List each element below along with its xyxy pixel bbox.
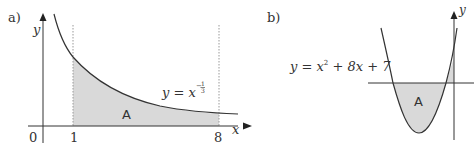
equation-b-part1: y = x	[289, 59, 325, 74]
x-axis-label-a: x	[232, 122, 240, 137]
y-axis-b-arrow-icon	[451, 11, 458, 19]
panel-b-label: b)	[267, 10, 280, 25]
origin-label: 0	[29, 130, 37, 145]
y-axis-arrow-icon	[40, 13, 47, 21]
region-label-b: A	[414, 94, 423, 109]
equation-b: y = x2 + 8x + 7	[289, 59, 391, 74]
equation-a-den: 3	[201, 87, 205, 94]
y-axis-label-a: y	[32, 22, 41, 37]
x-tick-1: 1	[70, 130, 78, 145]
equation-b-part2: + 8x + 7	[328, 59, 391, 74]
x-axis-arrow-icon	[243, 123, 252, 130]
equation-a-base: y = x	[161, 85, 197, 100]
panel-a-label: a)	[8, 10, 21, 25]
panel-b: b) y A y = x2 + 8x + 7	[267, 3, 474, 140]
region-label-a: A	[122, 107, 131, 122]
equation-a: y = x − 1 3	[161, 80, 205, 100]
x-tick-8: 8	[214, 130, 222, 145]
y-axis-label-b: y	[458, 3, 466, 17]
panel-a: a) y x 0 1 8 A y = x − 1 3	[8, 10, 240, 145]
figure-canvas: a) y x 0 1 8 A y = x − 1 3 b) y A	[0, 0, 474, 153]
equation-a-num: 1	[201, 80, 205, 87]
shaded-area-a	[73, 57, 219, 126]
